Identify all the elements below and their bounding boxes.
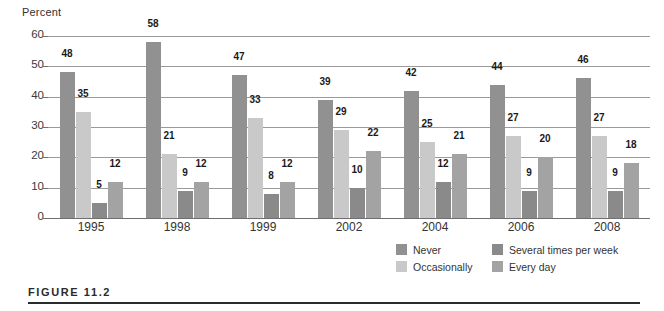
bar-value-label: 5 [96, 179, 102, 191]
bar-value-label: 48 [61, 48, 72, 60]
bar-1999-every-day[interactable]: 12 [280, 182, 295, 218]
bar-group-2006: 4427920 [478, 36, 564, 218]
bar-fill [146, 42, 161, 218]
y-axis-title: Percent [22, 6, 61, 18]
bar-group-2008: 4627918 [564, 36, 650, 218]
chart-legend: NeverSeveral times per weekOccasionallyE… [396, 241, 656, 275]
bar-1995-occasionally[interactable]: 35 [76, 112, 91, 218]
bar-1995-never[interactable]: 48 [60, 72, 75, 218]
bar-2002-occasionally[interactable]: 29 [334, 130, 349, 218]
bar-value-label: 29 [335, 106, 346, 118]
x-axis-label-2006: 2006 [478, 220, 564, 240]
bar-fill [194, 182, 209, 218]
bar-2008-several-times-per-week[interactable]: 9 [608, 191, 623, 218]
x-axis-label-2002: 2002 [306, 220, 392, 240]
bar-fill [318, 100, 333, 218]
legend-item-every-day[interactable]: Every day [492, 261, 656, 273]
bar-value-label: 12 [195, 158, 206, 170]
bar-2002-several-times-per-week[interactable]: 10 [350, 188, 365, 218]
bar-fill [404, 91, 419, 218]
bar-2006-several-times-per-week[interactable]: 9 [522, 191, 537, 218]
bar-2002-every-day[interactable]: 22 [366, 151, 381, 218]
bar-2008-never[interactable]: 46 [576, 78, 591, 218]
bar-2006-every-day[interactable]: 20 [538, 157, 553, 218]
bar-value-label: 35 [77, 88, 88, 100]
bar-fill [108, 182, 123, 218]
bar-fill [592, 136, 607, 218]
bar-value-label: 33 [249, 94, 260, 106]
bar-2004-never[interactable]: 42 [404, 91, 419, 218]
x-axis-label-2004: 2004 [392, 220, 478, 240]
legend-swatch-icon [396, 244, 407, 255]
bar-value-label: 21 [453, 130, 464, 142]
bar-value-label: 42 [405, 67, 416, 79]
y-tick-label-60: 60 [4, 28, 44, 40]
bar-2004-every-day[interactable]: 21 [452, 154, 467, 218]
y-tick-label-10: 10 [4, 180, 44, 192]
x-axis-labels: 1995199819992002200420062008 [48, 220, 650, 240]
bar-value-label: 39 [319, 76, 330, 88]
bar-value-label: 10 [351, 164, 362, 176]
figure-container: Percent 6050403020100 483551258219124733… [0, 0, 664, 311]
bar-group-2004: 42251221 [392, 36, 478, 218]
bar-fill [506, 136, 521, 218]
bar-1998-never[interactable]: 58 [146, 42, 161, 218]
bar-value-label: 9 [182, 167, 188, 179]
bar-value-label: 20 [539, 133, 550, 145]
x-axis-label-1998: 1998 [134, 220, 220, 240]
bar-value-label: 46 [577, 54, 588, 66]
legend-item-occasionally[interactable]: Occasionally [396, 261, 492, 273]
bar-2008-every-day[interactable]: 18 [624, 163, 639, 218]
legend-label: Every day [509, 261, 556, 273]
bar-1998-several-times-per-week[interactable]: 9 [178, 191, 193, 218]
bar-1995-every-day[interactable]: 12 [108, 182, 123, 218]
y-tick-label-20: 20 [4, 149, 44, 161]
bar-fill [576, 78, 591, 218]
bar-1999-occasionally[interactable]: 33 [248, 118, 263, 218]
bar-value-label: 47 [233, 51, 244, 63]
bar-value-label: 9 [612, 167, 618, 179]
bar-2002-never[interactable]: 39 [318, 100, 333, 218]
y-tick-label-0: 0 [4, 210, 44, 222]
bar-2006-never[interactable]: 44 [490, 85, 505, 218]
legend-label: Several times per week [509, 244, 618, 256]
bar-fill [178, 191, 193, 218]
bar-fill [366, 151, 381, 218]
bar-group-2002: 39291022 [306, 36, 392, 218]
bar-fill [264, 194, 279, 218]
bar-groups: 4835512582191247338123929102242251221442… [48, 36, 650, 218]
bar-value-label: 8 [268, 170, 274, 182]
x-axis-label-1999: 1999 [220, 220, 306, 240]
x-axis-label-1995: 1995 [48, 220, 134, 240]
legend-label: Occasionally [413, 261, 473, 273]
bar-1998-occasionally[interactable]: 21 [162, 154, 177, 218]
bar-2004-occasionally[interactable]: 25 [420, 142, 435, 218]
bar-value-label: 44 [491, 61, 502, 73]
legend-swatch-icon [492, 244, 503, 255]
y-tick-label-40: 40 [4, 89, 44, 101]
bar-value-label: 12 [109, 158, 120, 170]
bar-1998-every-day[interactable]: 12 [194, 182, 209, 218]
bar-2008-occasionally[interactable]: 27 [592, 136, 607, 218]
bar-2004-several-times-per-week[interactable]: 12 [436, 182, 451, 218]
legend-item-several-times-per-week[interactable]: Several times per week [492, 244, 656, 256]
bar-fill [538, 157, 553, 218]
bar-fill [248, 118, 263, 218]
bar-fill [334, 130, 349, 218]
legend-item-never[interactable]: Never [396, 244, 492, 256]
bar-2006-occasionally[interactable]: 27 [506, 136, 521, 218]
figure-caption-text: FIGURE 11.2 [28, 286, 640, 298]
bar-fill [280, 182, 295, 218]
y-tick-label-30: 30 [4, 119, 44, 131]
bar-1995-several-times-per-week[interactable]: 5 [92, 203, 107, 218]
legend-swatch-icon [492, 261, 503, 272]
bar-group-1998: 5821912 [134, 36, 220, 218]
bar-fill [162, 154, 177, 218]
bar-1999-never[interactable]: 47 [232, 75, 247, 218]
bar-fill [92, 203, 107, 218]
bar-group-1995: 4835512 [48, 36, 134, 218]
caption-divider [28, 302, 640, 304]
bar-1999-several-times-per-week[interactable]: 8 [264, 194, 279, 218]
y-tick-label-50: 50 [4, 58, 44, 70]
bar-value-label: 12 [281, 158, 292, 170]
